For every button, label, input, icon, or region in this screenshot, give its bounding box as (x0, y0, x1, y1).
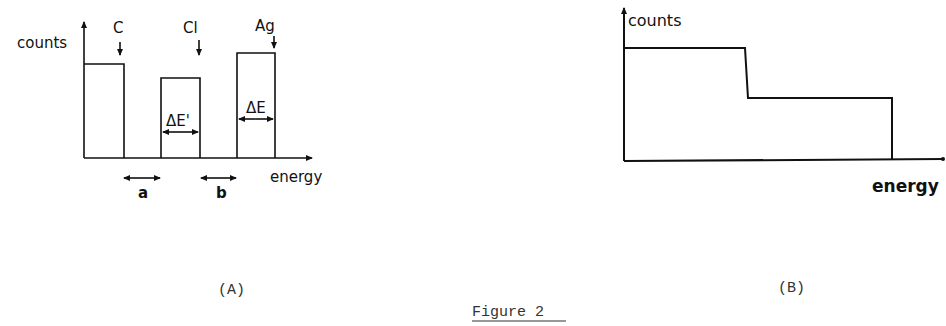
peak-c-bar (84, 64, 124, 158)
figure-canvas: counts energy C Cl Ag ΔE' ΔE a b counts (0, 0, 946, 326)
gap-b-label: b (216, 184, 227, 202)
step-spectrum (624, 48, 892, 160)
delta-e-prime-label: ΔE' (166, 112, 190, 130)
peak-label-c: C (113, 19, 123, 37)
y-axis-label: counts (17, 34, 67, 52)
x-axis-label: energy (270, 168, 322, 186)
y-axis-label: counts (628, 11, 681, 30)
gap-a-label: a (138, 184, 148, 202)
figure-caption: Figure 2 (472, 304, 544, 321)
delta-e-label: ΔE (246, 99, 266, 117)
peak-label-ag: Ag (255, 17, 275, 35)
panel-a-caption: (A) (218, 282, 245, 299)
x-axis-line (624, 159, 944, 161)
x-axis-end-dot (941, 157, 945, 161)
x-axis-label: energy (872, 176, 939, 196)
panel-a: counts energy C Cl Ag ΔE' ΔE a b (17, 17, 322, 202)
peak-label-cl: Cl (183, 19, 198, 37)
panel-b: counts energy (624, 8, 945, 196)
panel-b-caption: (B) (778, 280, 805, 297)
